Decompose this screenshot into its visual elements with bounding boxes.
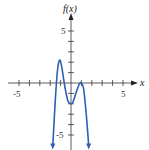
- y-axis-label: f(x): [63, 3, 78, 15]
- y-tick-label-5: 5: [61, 26, 66, 36]
- y-axis-arrow-icon: [69, 13, 74, 20]
- x-tick-label-neg5: -5: [13, 89, 21, 99]
- x-tick-label-5: 5: [121, 89, 126, 99]
- left-end-arrow-icon: [50, 143, 55, 149]
- right-end-arrow-icon: [86, 143, 91, 149]
- y-tick-label-neg5: -5: [56, 130, 64, 140]
- function-graph: f(x) x -5 5 5 -5: [0, 0, 149, 150]
- x-axis-label: x: [139, 77, 145, 88]
- x-axis-arrow-icon: [131, 81, 138, 86]
